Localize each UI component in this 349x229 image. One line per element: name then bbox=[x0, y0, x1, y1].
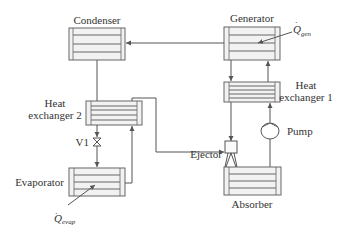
heat-exchanger-1 bbox=[224, 82, 280, 102]
absorber bbox=[224, 167, 281, 195]
generator bbox=[224, 27, 280, 60]
condenser-label: Condenser bbox=[73, 14, 120, 26]
condenser bbox=[69, 28, 125, 60]
q-gen-subscript: gen bbox=[301, 30, 312, 38]
hx2-label-line2: exchanger 2 bbox=[28, 109, 81, 121]
q-evap-subscript: evap bbox=[62, 218, 76, 226]
generator-label: Generator bbox=[230, 12, 274, 24]
absorber-label: Absorber bbox=[232, 198, 273, 210]
evaporator-to-hx2-line bbox=[125, 126, 132, 183]
hx1-label-line2: exchanger 1 bbox=[279, 91, 332, 103]
hx2-label-line1: Heat bbox=[45, 97, 66, 109]
absorption-ejector-cycle-diagram: Condenser Generator Qgen · Heat exchange… bbox=[0, 0, 349, 229]
valve-label: V1 bbox=[76, 136, 89, 148]
evaporator bbox=[69, 168, 125, 196]
pump-label: Pump bbox=[287, 125, 313, 137]
q-evap-label: Qevap bbox=[54, 212, 76, 226]
ejector-label: Ejector bbox=[190, 148, 222, 160]
q-evap-symbol: Q bbox=[54, 212, 62, 224]
evaporator-label: Evaporator bbox=[15, 176, 64, 188]
hx2-to-ejector-line bbox=[132, 98, 224, 152]
valve-v1 bbox=[93, 138, 101, 146]
heat-exchanger-2 bbox=[86, 101, 142, 125]
hx1-label-line1: Heat bbox=[296, 79, 317, 91]
ejector bbox=[225, 141, 237, 167]
q-gen-dot: · bbox=[295, 17, 297, 27]
pump bbox=[261, 123, 279, 139]
